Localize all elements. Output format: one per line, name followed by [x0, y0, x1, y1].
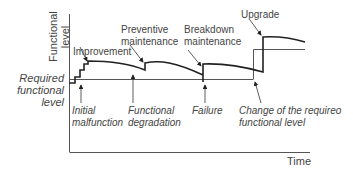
breakdown-arrow [188, 50, 201, 66]
pm-line1: Preventive [121, 24, 178, 36]
y-label-line1: Functional [47, 12, 59, 62]
functional-degradation-label: Functional degradation [128, 105, 181, 129]
initial-malfunction-label: Initial malfunction [72, 105, 123, 129]
pm-line2: maintenance [121, 36, 178, 48]
fd-line1: Functional [128, 105, 181, 117]
req-line1: Required [2, 72, 64, 84]
upgrade-arrow [250, 20, 261, 35]
req-line2: functional [2, 84, 64, 96]
bm-line1: Breakdown [184, 24, 241, 36]
y-label-line2: level [59, 12, 71, 62]
upgrade-label: Upgrade [241, 9, 279, 21]
bm-line2: maintenance [184, 36, 241, 48]
im-line1: Initial [72, 105, 123, 117]
breakdown-maintenance-label: Breakdown maintenance [184, 24, 241, 48]
x-axis-label: Time [287, 155, 311, 167]
preventive-maintenance-label: Preventive maintenance [121, 24, 178, 48]
im-line2: malfunction [72, 117, 123, 129]
fd-line2: degradation [128, 117, 181, 129]
failure-label: Failure [192, 105, 223, 117]
cr-line2: functional level [239, 117, 341, 129]
change-arrow [255, 82, 261, 103]
change-required-level-label: Change of the requireo functional level [239, 105, 341, 129]
req-line3: level [2, 96, 64, 108]
y-axis-label: Functional level [47, 12, 71, 62]
cr-line1: Change of the requireo [239, 105, 341, 117]
required-level-label: Required functional level [2, 72, 64, 108]
